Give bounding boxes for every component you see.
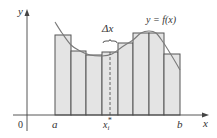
riemann-rectangle bbox=[118, 43, 133, 115]
sample-point-subscript: i bbox=[107, 124, 109, 132]
delta-x-brace bbox=[103, 40, 117, 44]
sample-point-superscript: * bbox=[107, 116, 111, 125]
sample-point-label: xi* bbox=[102, 116, 111, 132]
b-label: b bbox=[177, 118, 183, 130]
riemann-rectangle bbox=[133, 33, 149, 115]
riemann-rectangle bbox=[71, 51, 86, 115]
riemann-rectangle bbox=[86, 55, 102, 115]
riemann-rectangle bbox=[164, 54, 180, 115]
riemann-sum-diagram: y x 0 a b xi* Δx y = f(x) bbox=[0, 0, 217, 138]
riemann-rectangle bbox=[149, 33, 164, 115]
origin-label: 0 bbox=[18, 119, 23, 130]
y-axis-arrow-icon bbox=[25, 9, 30, 16]
riemann-rectangle bbox=[55, 35, 71, 115]
riemann-rectangles bbox=[55, 33, 180, 115]
function-label: y = f(x) bbox=[145, 14, 177, 26]
a-label: a bbox=[52, 118, 58, 130]
x-axis-label: x bbox=[202, 117, 208, 129]
delta-x-label: Δx bbox=[101, 22, 113, 34]
y-axis-label: y bbox=[17, 5, 23, 17]
diagram-canvas: y x 0 a b xi* Δx y = f(x) bbox=[0, 0, 217, 138]
